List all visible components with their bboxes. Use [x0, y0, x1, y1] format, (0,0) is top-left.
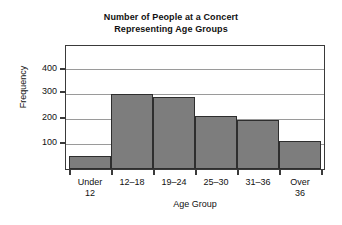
- chart-title: Number of People at a Concert Representi…: [0, 12, 342, 35]
- bar-over-36: [279, 141, 321, 169]
- bar-25-30: [195, 116, 237, 169]
- bar-31-36: [237, 120, 279, 169]
- x-tick-label-12-18-line-1: 12–18: [119, 177, 144, 187]
- chart-title-line-2: Representing Age Groups: [0, 24, 342, 36]
- y-tick-label-300: 300: [17, 86, 57, 96]
- x-tick-mark-4: [237, 170, 239, 175]
- bar-19-24: [153, 97, 195, 169]
- bar-12-18: [111, 94, 153, 169]
- bar-under-12: [69, 156, 111, 169]
- x-tick-label-under-12-line-1: Under: [78, 177, 103, 187]
- x-tick-label-over-36-line-1: Over: [290, 177, 310, 187]
- y-tick-label-200: 200: [17, 112, 57, 122]
- x-tick-mark-1: [111, 170, 113, 175]
- x-tick-label-19-24-line-1: 19–24: [161, 177, 186, 187]
- y-tick-label-100: 100: [17, 137, 57, 147]
- x-tick-label-over-36-line-2: 36: [270, 188, 330, 199]
- bar-chart: Number of People at a Concert Representi…: [0, 0, 342, 225]
- x-tick-mark-3: [195, 170, 197, 175]
- x-axis-title: Age Group: [65, 199, 325, 210]
- plot-area: [65, 45, 325, 170]
- x-tick-mark-2: [153, 170, 155, 175]
- x-tick-mark-6: [321, 170, 323, 175]
- y-tick-label-400: 400: [17, 63, 57, 73]
- bars-layer: [66, 46, 324, 169]
- x-tick-label-under-12-line-2: 12: [60, 188, 120, 199]
- x-tick-mark-0: [69, 170, 71, 175]
- x-tick-label-31-36-line-1: 31–36: [245, 177, 270, 187]
- x-tick-label-over-36: Over 36: [270, 177, 330, 199]
- chart-title-line-1: Number of People at a Concert: [0, 12, 342, 24]
- x-tick-label-25-30-line-1: 25–30: [203, 177, 228, 187]
- x-tick-mark-5: [279, 170, 281, 175]
